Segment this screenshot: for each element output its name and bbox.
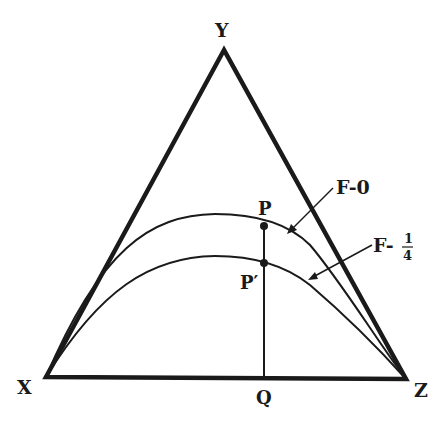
curve-f-0 bbox=[46, 214, 406, 379]
curve-label-f-quarter-num: 1 bbox=[404, 231, 413, 246]
curve-label-f-quarter-prefix: F- bbox=[373, 234, 394, 256]
point-label-p: P bbox=[258, 198, 272, 219]
point-p bbox=[260, 222, 268, 230]
vertex-label-z: Z bbox=[414, 379, 428, 401]
curve-label-f-quarter-den: 4 bbox=[403, 248, 412, 263]
ternary-diagram: Y X Z P P′ Q F-0 F- 1 4 bbox=[0, 0, 447, 421]
curve-label-f-0-prefix: F- bbox=[336, 176, 357, 198]
arrowhead-f-quarter bbox=[308, 272, 318, 280]
vertex-label-x: X bbox=[17, 376, 32, 398]
curve-label-f-0-value: 0 bbox=[357, 176, 370, 198]
point-label-q: Q bbox=[256, 387, 272, 408]
vertex-label-y: Y bbox=[214, 19, 229, 41]
leader-f-0 bbox=[290, 188, 333, 231]
curve-label-f-0: F-0 bbox=[336, 176, 370, 198]
point-label-p-prime: P′ bbox=[240, 272, 259, 293]
point-p-prime bbox=[260, 259, 268, 267]
